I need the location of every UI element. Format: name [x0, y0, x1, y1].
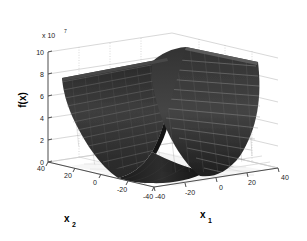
x2-tick-label: 40: [37, 165, 45, 172]
x1-axis-label-group: x 1: [200, 209, 212, 224]
z-tick-label: 4: [40, 115, 44, 122]
x1-axis-label-sub: 1: [208, 217, 212, 224]
x2-tick-label: -40: [143, 193, 153, 200]
x1-tick-label: -20: [185, 189, 195, 196]
z-tick-label: 6: [40, 93, 44, 100]
z-axis-label-group: f(x): [17, 92, 28, 108]
x1-tick-label: 20: [248, 179, 256, 186]
z-tick-label: 8: [40, 71, 44, 78]
surface-plot-svg: 10 8 6 4 2 0 40 20 0 -20 -40 -40 -20 0 2…: [0, 0, 307, 241]
z-axis-label: f(x): [17, 92, 28, 108]
z-axis-ticks: [48, 51, 52, 162]
z-axis-exponent: x 10 7: [42, 28, 67, 39]
z-tick-label: 2: [40, 137, 44, 144]
exponent-power: 7: [64, 28, 67, 34]
z-tick-labels: 10 8 6 4 2 0: [36, 49, 44, 166]
x2-axis-label: x: [64, 213, 70, 224]
figure-canvas: 10 8 6 4 2 0 40 20 0 -20 -40 -40 -20 0 2…: [0, 0, 307, 241]
z-tick-label: 10: [36, 49, 44, 56]
x2-axis-label-group: x 2: [64, 213, 76, 228]
x1-axis-label: x: [200, 209, 206, 220]
x2-tick-label: 0: [93, 179, 97, 186]
exponent-prefix: x 10: [42, 32, 55, 39]
x1-tick-label: 0: [219, 184, 223, 191]
x2-tick-label: 20: [64, 172, 72, 179]
x1-tick-label: -40: [155, 193, 165, 200]
x2-tick-label: -20: [117, 186, 127, 193]
x2-axis-label-sub: 2: [72, 221, 76, 228]
x1-tick-label: 40: [281, 174, 289, 181]
